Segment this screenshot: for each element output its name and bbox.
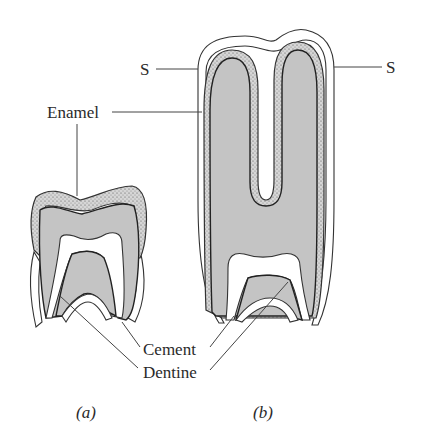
tooth-diagram: S S Enamel Cement Dentine (a) (b)	[0, 0, 423, 435]
label-dentine: Dentine	[143, 363, 197, 382]
leader-cement-a	[122, 322, 140, 347]
label-enamel: Enamel	[47, 103, 99, 122]
caption-a: (a)	[76, 403, 96, 422]
caption-b: (b)	[253, 403, 273, 422]
label-cement: Cement	[143, 340, 196, 359]
tooth-b	[198, 29, 334, 325]
tooth-a	[30, 186, 146, 327]
label-s-left: S	[140, 60, 149, 79]
label-s-right: S	[386, 58, 395, 77]
